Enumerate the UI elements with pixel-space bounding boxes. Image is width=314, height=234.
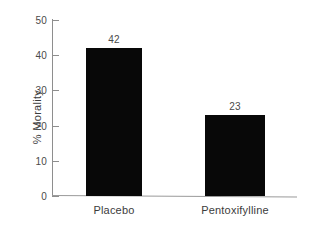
y-axis-tick-label: 20 (35, 120, 47, 131)
x-axis-category-label: Placebo (44, 204, 184, 216)
y-axis-tick-label: 50 (35, 15, 47, 26)
bar: 23 (205, 115, 265, 196)
plot-area: 4223 (52, 20, 297, 196)
x-axis-category-label: Pentoxifylline (165, 204, 305, 216)
y-axis-title: % Morality (31, 90, 43, 144)
y-axis-tick-label: 10 (35, 155, 47, 166)
y-axis-tick-mark (52, 196, 59, 197)
y-axis-tick-label: 40 (35, 50, 47, 61)
bar-value-label: 42 (108, 34, 120, 45)
bar-chart-figure: % Morality 01020304050 4223 PlaceboPento… (0, 0, 314, 234)
bar-value-label: 23 (229, 101, 241, 112)
y-axis-tick-label: 0 (41, 191, 47, 202)
y-axis-tick-label: 30 (35, 85, 47, 96)
bar: 42 (86, 48, 142, 196)
